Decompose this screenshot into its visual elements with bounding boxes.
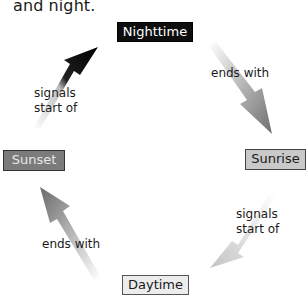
edge-label-line: start of xyxy=(236,222,279,237)
edge-label-ends-with-bottom: ends with xyxy=(42,237,100,252)
edge-label-line: signals xyxy=(236,207,279,222)
node-daytime: Daytime xyxy=(122,275,189,295)
node-sunrise: Sunrise xyxy=(245,149,306,170)
arrow-daytime-to-sunset xyxy=(40,187,100,280)
node-nighttime: Nighttime xyxy=(117,22,193,42)
edge-label-ends-with-top: ends with xyxy=(211,66,269,81)
edge-label-signals-start-of-left: signals start of xyxy=(34,86,77,116)
node-sunset: Sunset xyxy=(3,150,65,171)
edge-label-line: signals xyxy=(34,86,77,101)
cycle-diagram: and night. xyxy=(0,0,308,296)
edge-label-line: start of xyxy=(34,101,77,116)
edge-label-signals-start-of-right: signals start of xyxy=(236,207,279,237)
arrow-nighttime-to-sunrise xyxy=(209,42,272,134)
